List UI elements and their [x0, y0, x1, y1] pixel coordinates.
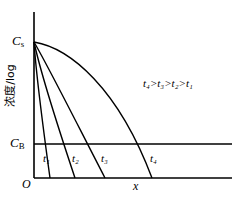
diffusion-concentration-chart: Cs CB O x 浓度/log t₄>t₃>t₂>t₁ t₁ t₂ t₃ t₄ [0, 0, 240, 205]
cb-subscript: B [19, 141, 25, 151]
chart-canvas [0, 0, 240, 205]
cs-axis-label: Cs [12, 34, 24, 49]
curve-t4 [34, 42, 152, 178]
curve-label-t2: t₂ [72, 153, 79, 164]
time-ordering-annotation: t₄>t₃>t₂>t₁ [143, 78, 193, 89]
curve-label-t3: t₃ [101, 153, 108, 164]
cb-symbol: C [10, 135, 19, 150]
curve-label-t1: t₁ [43, 153, 50, 164]
cs-symbol: C [12, 33, 21, 48]
curve-t2 [34, 42, 75, 178]
origin-label: O [22, 178, 31, 190]
cs-subscript: s [21, 39, 24, 49]
x-axis-label: x [133, 180, 138, 192]
cb-axis-label: CB [10, 136, 25, 151]
y-axis-title: 浓度/log [5, 55, 16, 117]
curve-label-t4: t₄ [150, 153, 157, 164]
